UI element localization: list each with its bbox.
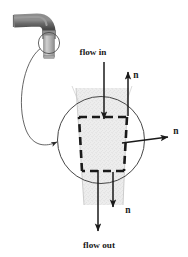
water-stream-icon xyxy=(72,86,132,205)
label-normal-bottom: n xyxy=(125,205,131,215)
label-flow-in: flow in xyxy=(80,47,107,57)
label-normal-right: n xyxy=(173,126,179,136)
faucet-icon xyxy=(13,15,55,58)
right-arrow-icon-normal-right xyxy=(122,137,168,143)
label-flow-out: flow out xyxy=(83,240,116,250)
diagram-svg: flow in n n n flow out xyxy=(0,0,188,257)
label-normal-top: n xyxy=(133,70,139,80)
callout-leader-icon xyxy=(21,49,57,145)
figure-canvas: flow in n n n flow out xyxy=(0,0,188,257)
